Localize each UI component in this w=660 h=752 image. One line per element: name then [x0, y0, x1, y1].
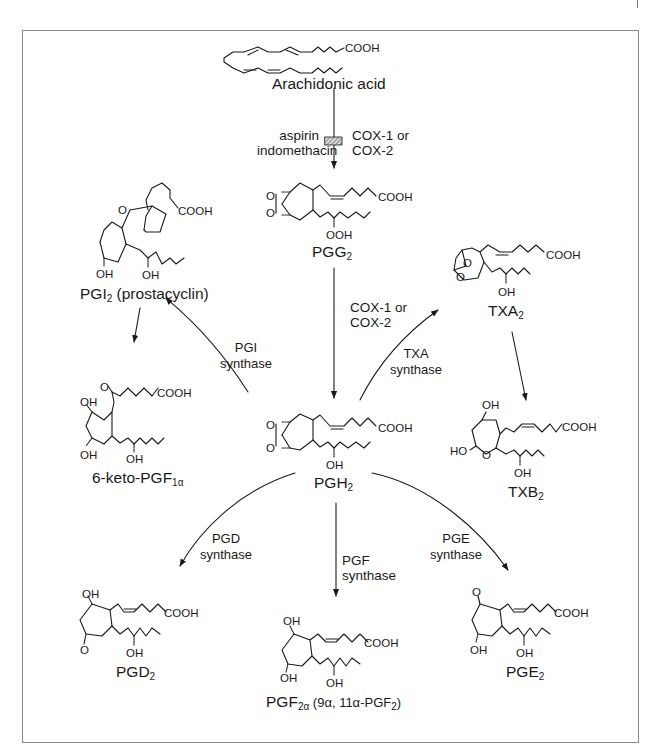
- txa2-cooh: COOH: [546, 248, 581, 263]
- pgd2-structure: [80, 596, 166, 645]
- pgh2-cooh: COOH: [378, 421, 413, 436]
- cox-mid-line1: COX-1 or: [350, 300, 407, 315]
- pge2-oh2: OH: [516, 646, 533, 661]
- pgh2-label: PGH2: [314, 475, 353, 490]
- txb2-ho: HO: [450, 444, 467, 459]
- pgg2-label: PGG2: [312, 244, 352, 259]
- arachidonic-acid-structure: [224, 47, 344, 73]
- pgi2-oh1: OH: [96, 267, 113, 282]
- txb2-cooh: COOH: [562, 420, 597, 435]
- txb2-oh1: OH: [482, 398, 499, 413]
- pgd2-label: PGD2: [116, 664, 155, 679]
- pgi2-ring-o: O: [118, 203, 127, 218]
- inhibitor-labels: aspirin indomethacin: [257, 128, 319, 158]
- pgf-synthase-line2: synthase: [342, 568, 396, 583]
- pgi-synthase-line2: synthase: [220, 356, 272, 372]
- pgd2-oh2: OH: [126, 646, 143, 661]
- keto-oh2: OH: [80, 448, 97, 463]
- pgf2a-oh2: OH: [280, 671, 297, 686]
- pgh2-o1: O: [266, 418, 275, 433]
- pgd-synthase-line2: synthase: [200, 547, 252, 563]
- pathway-diagram: [0, 0, 660, 752]
- txb2-ring-o: O: [482, 448, 491, 463]
- pgg2-o2: O: [266, 206, 275, 221]
- pge2-structure: [472, 596, 556, 645]
- cox-top-line2: COX-2: [352, 143, 409, 158]
- keto-pgf1a-structure: [86, 386, 164, 452]
- txb2-label: TXB2: [508, 484, 544, 499]
- pgf2a-structure: [282, 626, 368, 675]
- pgh2-structure: [276, 414, 376, 457]
- pgi2-label: PGI2 (prostacyclin): [80, 286, 209, 301]
- arrow-txa2-to-txb2: [512, 332, 526, 400]
- arachidonic-acid-label: Arachidonic acid: [272, 76, 386, 91]
- pgd-synthase-line1: PGD: [200, 531, 252, 547]
- pgf-synthase-line1: PGF: [342, 553, 396, 568]
- txa-synthase-line2: synthase: [390, 362, 442, 378]
- keto-o: O: [100, 380, 109, 395]
- aa-cooh-label: COOH: [345, 41, 380, 56]
- pgi-synthase-line1: PGI: [220, 340, 272, 356]
- cox-top-label: COX-1 or COX-2: [352, 128, 409, 158]
- cox-mid-label: COX-1 or COX-2: [350, 300, 407, 330]
- pgd2-o: O: [80, 643, 89, 658]
- pgf2a-cooh: COOH: [364, 636, 399, 651]
- keto-oh1: OH: [80, 395, 97, 410]
- pgd-synthase-label: PGD synthase: [200, 531, 252, 563]
- pgi2-cooh: COOH: [178, 204, 213, 219]
- pgg2-ooh: OOH: [326, 228, 352, 243]
- pge2-o: O: [472, 585, 481, 600]
- pgg2-cooh: COOH: [378, 190, 413, 205]
- pge-synthase-label: PGE synthase: [430, 531, 482, 563]
- txa2-oh: OH: [498, 285, 515, 300]
- pgd2-oh1: OH: [82, 587, 99, 602]
- pgf2a-label: PGF2α (9α, 11α-PGF2): [266, 694, 401, 710]
- txa2-o2: O: [456, 270, 465, 285]
- pge2-cooh: COOH: [554, 606, 589, 621]
- pge2-oh1: OH: [470, 643, 487, 658]
- pgf2a-oh1: OH: [283, 614, 300, 629]
- arrow-pgi2-to-ketopgf: [134, 308, 140, 342]
- pgg2-structure: [276, 183, 376, 227]
- txa2-label: TXA2: [488, 303, 524, 318]
- txb2-oh2: OH: [514, 466, 531, 481]
- txa-synthase-line1: TXA: [390, 346, 442, 362]
- aspirin-label: aspirin: [257, 128, 319, 143]
- keto-cooh: COOH: [157, 386, 192, 401]
- pgi2-oh2: OH: [142, 268, 159, 283]
- txa2-o1: O: [463, 256, 472, 271]
- pgh2-oh: OH: [326, 458, 343, 473]
- indomethacin-label: indomethacin: [257, 143, 319, 158]
- pgi-synthase-label: PGI synthase: [220, 340, 272, 372]
- pgi2-structure: [100, 183, 184, 268]
- keto-pgf1a-label: 6-keto-PGF1α: [92, 470, 183, 485]
- cox-top-line1: COX-1 or: [352, 128, 409, 143]
- pgg2-o1: O: [266, 189, 275, 204]
- pgf-synthase-label: PGF synthase: [342, 553, 396, 583]
- pge2-label: PGE2: [506, 664, 544, 679]
- pgh2-o2: O: [266, 441, 275, 456]
- pge-synthase-line2: synthase: [430, 547, 482, 563]
- cox-mid-line2: COX-2: [350, 315, 407, 330]
- pgf2a-oh3: OH: [326, 676, 343, 691]
- pgd2-cooh: COOH: [164, 606, 199, 621]
- keto-oh3: OH: [126, 452, 143, 467]
- txa-synthase-label: TXA synthase: [390, 346, 442, 378]
- pge-synthase-line1: PGE: [430, 531, 482, 547]
